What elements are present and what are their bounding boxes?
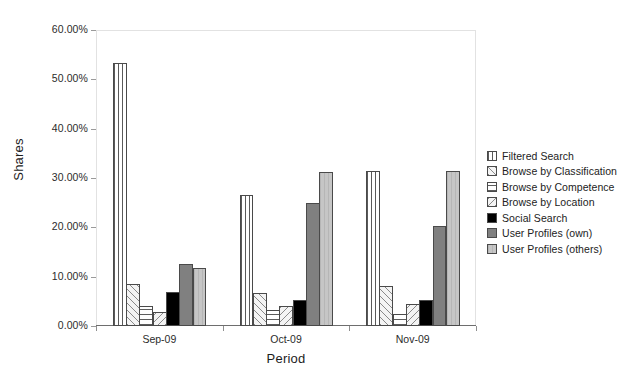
legend-label: Browse by Competence — [502, 181, 614, 193]
legend-item[interactable]: User Profiles (others) — [487, 241, 617, 257]
x-tick-label-oct-09: Oct-09 — [226, 333, 346, 345]
bar-browse-by-location-nov-09 — [406, 304, 420, 326]
bar-filtered-search-oct-09 — [240, 195, 254, 326]
bar-browse-by-location-sep-09 — [153, 312, 167, 326]
legend-item[interactable]: User Profiles (own) — [487, 226, 617, 242]
y-tick-label: 40.00% — [26, 122, 88, 134]
bar-filtered-search-nov-09 — [366, 171, 380, 326]
x-tick-mark — [476, 326, 477, 331]
legend-label: User Profiles (others) — [502, 243, 602, 255]
legend-item[interactable]: Browse by Competence — [487, 179, 617, 195]
x-tick-label-nov-09: Nov-09 — [353, 333, 473, 345]
legend-swatch-icon — [487, 166, 497, 176]
bar-browse-by-classification-oct-09 — [253, 293, 267, 326]
bar-browse-by-competence-nov-09 — [393, 314, 407, 326]
bar-user-profiles-others-oct-09 — [319, 172, 333, 326]
legend-item[interactable]: Browse by Classification — [487, 164, 617, 180]
bars-layer — [96, 30, 476, 326]
legend-item[interactable]: Browse by Location — [487, 195, 617, 211]
x-tick-mark — [349, 326, 350, 331]
y-tick-label: 60.00% — [26, 23, 88, 35]
y-tick-label: 10.00% — [26, 270, 88, 282]
legend: Filtered SearchBrowse by ClassificationB… — [487, 148, 617, 257]
legend-item[interactable]: Social Search — [487, 210, 617, 226]
legend-label: Browse by Location — [502, 196, 595, 208]
bar-browse-by-classification-sep-09 — [126, 284, 140, 326]
bar-user-profiles-own-sep-09 — [179, 264, 193, 326]
y-tick-label: 30.00% — [26, 171, 88, 183]
y-tick-label: 50.00% — [26, 72, 88, 84]
bar-browse-by-competence-oct-09 — [266, 310, 280, 326]
bar-browse-by-competence-sep-09 — [139, 306, 153, 326]
legend-swatch-icon — [487, 197, 497, 207]
legend-label: User Profiles (own) — [502, 227, 592, 239]
bar-user-profiles-own-oct-09 — [306, 203, 320, 326]
legend-label: Browse by Classification — [502, 165, 617, 177]
bar-user-profiles-others-nov-09 — [446, 171, 460, 326]
bar-browse-by-location-oct-09 — [279, 306, 293, 326]
x-tick-mark — [223, 326, 224, 331]
legend-swatch-icon — [487, 244, 497, 254]
legend-label: Social Search — [502, 212, 567, 224]
x-axis-title: Period — [96, 351, 476, 366]
bar-browse-by-classification-nov-09 — [379, 286, 393, 326]
bar-social-search-oct-09 — [293, 300, 307, 326]
x-tick-mark — [96, 326, 97, 331]
bar-user-profiles-own-nov-09 — [433, 226, 447, 326]
y-tick-label: 20.00% — [26, 220, 88, 232]
legend-swatch-icon — [487, 213, 497, 223]
y-tick-label: 0.00% — [26, 319, 88, 331]
bar-chart: Shares 0.00%10.00%20.00%30.00%40.00%50.0… — [0, 0, 633, 385]
bar-social-search-nov-09 — [419, 300, 433, 326]
y-axis-title: Shares — [11, 120, 26, 200]
legend-swatch-icon — [487, 228, 497, 238]
legend-swatch-icon — [487, 182, 497, 192]
bar-user-profiles-others-sep-09 — [193, 268, 207, 326]
legend-item[interactable]: Filtered Search — [487, 148, 617, 164]
legend-swatch-icon — [487, 151, 497, 161]
bar-social-search-sep-09 — [166, 292, 180, 326]
x-tick-label-sep-09: Sep-09 — [99, 333, 219, 345]
bar-filtered-search-sep-09 — [113, 63, 127, 326]
legend-label: Filtered Search — [502, 150, 574, 162]
